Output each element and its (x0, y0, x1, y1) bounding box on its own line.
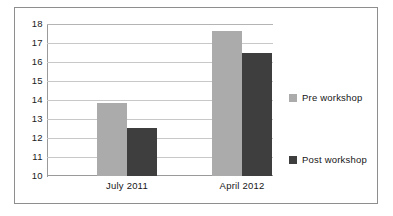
y-axis-tick-labels: 101112131415161718 (14, 24, 43, 176)
y-tick-label-10: 10 (17, 171, 43, 181)
y-tick-label-16: 16 (17, 57, 43, 67)
y-tick-label-14: 14 (17, 95, 43, 105)
x-label-april-2012: April 2012 (192, 180, 292, 192)
y-tick-label-12: 12 (17, 133, 43, 143)
bar-pre-workshop-july-2011 (97, 103, 127, 176)
x-axis-category-labels: July 2011April 2012 (47, 180, 273, 194)
legend-label: Pre workshop (302, 92, 362, 104)
legend-label: Post workshop (302, 154, 367, 166)
bar-post-workshop-april-2012 (242, 53, 272, 176)
legend-swatch-icon (289, 156, 297, 164)
y-tick-label-17: 17 (17, 38, 43, 48)
y-tick-label-18: 18 (17, 19, 43, 29)
y-tick-label-11: 11 (17, 152, 43, 162)
legend-swatch-icon (289, 94, 297, 102)
bar-post-workshop-july-2011 (127, 128, 157, 176)
y-tick-label-13: 13 (17, 114, 43, 124)
y-tick-label-15: 15 (17, 76, 43, 86)
gridline-18 (47, 24, 273, 25)
bar-pre-workshop-april-2012 (212, 31, 242, 176)
x-label-july-2011: July 2011 (77, 180, 177, 192)
plot-area (47, 24, 273, 176)
bar-chart-figure: 101112131415161718 July 2011April 2012 P… (0, 0, 393, 216)
